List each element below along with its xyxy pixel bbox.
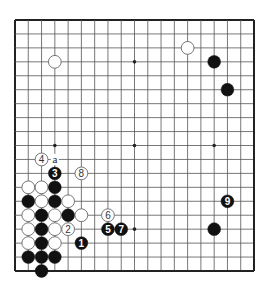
white-stone	[75, 209, 88, 222]
white-stone	[22, 223, 35, 236]
black-stone	[35, 265, 48, 278]
black-stone	[35, 223, 48, 236]
white-stone	[48, 209, 61, 222]
go-board: 943862571 a	[0, 0, 267, 294]
black-stone: 1	[75, 237, 88, 250]
black-stone: 3	[48, 167, 61, 180]
black-stone	[208, 223, 221, 236]
black-stone	[35, 237, 48, 250]
white-stone	[22, 209, 35, 222]
marks-layer: a	[51, 153, 59, 165]
black-stone	[221, 83, 234, 96]
star-point	[133, 60, 137, 64]
star-point	[212, 144, 216, 148]
star-point	[133, 144, 137, 148]
white-stone: 8	[75, 167, 88, 180]
black-stone	[48, 195, 61, 208]
black-stone	[35, 251, 48, 264]
move-number-label: 4	[39, 154, 45, 165]
white-stone: 6	[102, 209, 115, 222]
white-stone	[22, 181, 35, 194]
black-stone	[22, 251, 35, 264]
white-stone	[48, 55, 61, 68]
move-number-label: 2	[65, 224, 71, 235]
star-point	[133, 227, 137, 231]
move-number-label: 5	[105, 224, 111, 235]
move-number-label: 8	[79, 168, 85, 179]
black-stone: 7	[115, 223, 128, 236]
move-number-label: 1	[79, 238, 85, 249]
point-mark-label: a	[52, 153, 57, 165]
black-stone	[22, 195, 35, 208]
white-stone	[22, 237, 35, 250]
move-number-label: 6	[105, 210, 111, 221]
move-number-label: 9	[225, 196, 231, 207]
black-stone	[35, 209, 48, 222]
black-stone: 5	[102, 223, 115, 236]
black-stone: 9	[221, 195, 234, 208]
move-number-label: 3	[52, 168, 58, 179]
black-stone	[48, 251, 61, 264]
black-stone	[48, 181, 61, 194]
move-number-label: 7	[118, 224, 124, 235]
black-stone	[208, 55, 221, 68]
white-stone: 4	[35, 153, 48, 166]
black-stone	[62, 209, 75, 222]
white-stone	[35, 181, 48, 194]
white-stone	[181, 41, 194, 54]
white-stone	[35, 195, 48, 208]
white-stone	[48, 223, 61, 236]
white-stone: 2	[62, 223, 75, 236]
white-stone	[48, 237, 61, 250]
star-point	[53, 144, 57, 148]
white-stone	[62, 195, 75, 208]
